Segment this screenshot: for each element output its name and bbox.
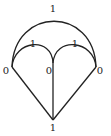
left-small-arc-label: 1 [30,38,36,49]
right-small-arc-label: 1 [72,38,78,49]
edge-right-bottom [53,67,96,120]
bottom-vertex-label: 1 [50,122,56,133]
left-vertex-label: 0 [3,65,9,76]
graph-diagram: 1 1 1 0 0 0 1 [0,0,111,136]
top-arc-label: 1 [50,3,56,14]
middle-vertex-label: 0 [46,65,52,76]
right-vertex-label: 0 [97,65,103,76]
